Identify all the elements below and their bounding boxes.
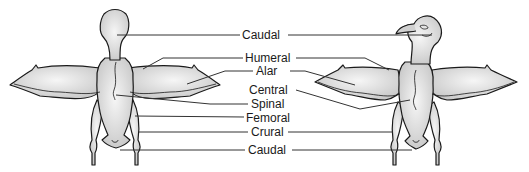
label-caudal-top: Caudal	[241, 28, 281, 42]
head-ventral	[398, 16, 441, 64]
label-central: Central	[248, 83, 289, 97]
label-alar: Alar	[255, 64, 278, 78]
right-wing-ventral	[430, 65, 517, 100]
body-ventral	[399, 62, 434, 149]
dorsal-view-bird	[10, 10, 220, 166]
label-caudal-bottom: Caudal	[247, 143, 287, 157]
label-spinal: Spinal	[250, 97, 285, 111]
label-crural: Crural	[250, 125, 285, 139]
left-wing-ventral	[315, 65, 402, 100]
ventral-view-bird	[315, 16, 517, 165]
pterylae-diagram: Caudal Humeral Alar Central Spinal Femor…	[0, 0, 529, 172]
label-femoral: Femoral	[245, 111, 291, 125]
label-humeral: Humeral	[244, 51, 291, 65]
